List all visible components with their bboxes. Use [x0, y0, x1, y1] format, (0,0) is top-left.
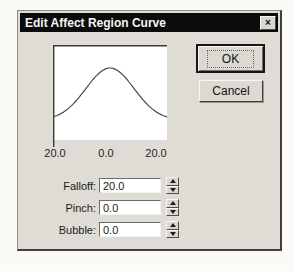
plot-background — [53, 45, 167, 140]
falloff-spin-up-icon[interactable] — [166, 177, 179, 186]
bubble-spin-up-icon[interactable] — [166, 221, 179, 230]
pinch-spinner — [166, 199, 179, 216]
bubble-input[interactable] — [99, 222, 161, 237]
bubble-spin-down-icon[interactable] — [166, 230, 179, 239]
falloff-spinner — [166, 177, 179, 194]
falloff-spin-down-icon[interactable] — [166, 186, 179, 195]
ok-button-label: OK — [208, 51, 253, 67]
pinch-input[interactable] — [99, 200, 161, 215]
title-bar[interactable]: Edit Affect Region Curve × — [20, 13, 278, 32]
pinch-label: Pinch: — [36, 202, 99, 214]
axis-label-left: 20.0 — [44, 147, 65, 159]
falloff-row: Falloff: — [36, 177, 186, 194]
axis-label-center: 0.0 — [98, 147, 113, 159]
close-icon[interactable]: × — [260, 16, 276, 30]
falloff-input[interactable] — [99, 178, 161, 193]
pinch-row: Pinch: — [36, 199, 186, 216]
bubble-label: Bubble: — [36, 224, 99, 236]
pinch-spin-up-icon[interactable] — [166, 199, 179, 208]
falloff-label: Falloff: — [36, 180, 99, 192]
cancel-button[interactable]: Cancel — [199, 80, 263, 102]
pinch-spin-down-icon[interactable] — [166, 208, 179, 217]
ok-button[interactable]: OK — [196, 44, 265, 73]
dialog-title: Edit Affect Region Curve — [25, 16, 260, 30]
bubble-row: Bubble: — [36, 221, 186, 238]
region-curve-plot — [53, 45, 167, 147]
axis-label-right: 20.0 — [145, 147, 166, 159]
edit-affect-region-curve-dialog: Edit Affect Region Curve × 20.0 0.0 20.0… — [17, 10, 282, 251]
cancel-button-label: Cancel — [212, 84, 249, 98]
bubble-spinner — [166, 221, 179, 238]
